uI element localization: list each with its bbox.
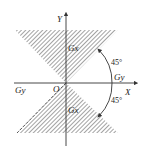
y-axis-label: Y <box>57 14 63 24</box>
upper-region-label: Gx <box>68 43 79 53</box>
lower-angle-label: 45° <box>111 96 122 105</box>
x-axis-label: X <box>124 87 131 97</box>
upper-gx-region <box>15 30 118 83</box>
cone-region-diagram: Y X O Gx Gx Gy Gy 45° 45° <box>0 0 145 157</box>
origin-label: O <box>53 84 60 94</box>
positive-x-boundary-label: Gy <box>114 72 125 82</box>
upper-angle-label: 45° <box>111 58 122 67</box>
lower-region-label: Gx <box>68 105 79 115</box>
negative-x-boundary-label: Gy <box>15 85 26 95</box>
